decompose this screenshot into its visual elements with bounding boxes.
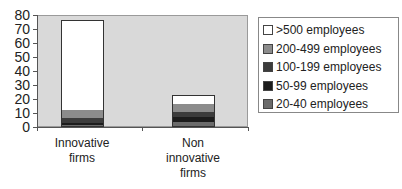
y-tick <box>33 99 37 100</box>
legend-item: 200-499 employees <box>263 40 398 59</box>
legend-swatch-icon <box>263 62 273 72</box>
legend-label: >500 employees <box>276 23 364 37</box>
y-axis <box>37 15 38 128</box>
bar-segment <box>173 96 214 104</box>
x-label-line: Non <box>148 136 238 151</box>
legend-swatch-icon <box>263 81 273 91</box>
legend-label: 100-199 employees <box>276 60 381 74</box>
x-tick <box>37 127 38 131</box>
y-tick-label: 10 <box>2 106 30 120</box>
legend-swatch-icon <box>263 44 273 54</box>
bar-segment <box>173 104 214 113</box>
bar-non-innovative-firms <box>172 95 215 127</box>
x-label-line: Innovative <box>37 136 127 151</box>
y-tick-label: 40 <box>2 64 30 78</box>
legend-swatch-icon <box>263 99 273 109</box>
bar-segment <box>62 21 103 110</box>
legend-swatch-icon <box>263 25 273 35</box>
bar-segment <box>62 125 103 126</box>
x-tick <box>142 127 143 131</box>
x-label-line: firms <box>37 151 127 166</box>
legend-item: 20-40 employees <box>263 95 398 114</box>
legend-label: 20-40 employees <box>276 97 368 111</box>
bar-segment <box>62 110 103 118</box>
bar-segment <box>173 122 214 126</box>
legend-item: 100-199 employees <box>263 58 398 77</box>
y-tick <box>33 113 37 114</box>
legend-item: >500 employees <box>263 21 398 40</box>
y-tick <box>33 29 37 30</box>
y-tick-label: 60 <box>2 36 30 50</box>
y-tick-label: 30 <box>2 78 30 92</box>
y-tick <box>33 57 37 58</box>
y-tick-label: 0 <box>2 120 30 134</box>
x-tick-label: Innovativefirms <box>37 136 127 166</box>
legend-item: 50-99 employees <box>263 77 398 96</box>
y-tick-label: 50 <box>2 50 30 64</box>
legend-label: 50-99 employees <box>276 79 368 93</box>
bar-innovative-firms <box>61 20 104 127</box>
y-tick <box>33 43 37 44</box>
y-tick <box>33 15 37 16</box>
x-tick-label: Noninnovativefirms <box>148 136 238 181</box>
x-label-line: firms <box>148 166 238 181</box>
y-tick-label: 20 <box>2 92 30 106</box>
y-tick-label: 80 <box>2 8 30 22</box>
x-label-line: innovative <box>148 151 238 166</box>
y-tick <box>33 85 37 86</box>
y-tick-label: 70 <box>2 22 30 36</box>
x-tick <box>248 127 249 131</box>
legend: >500 employees200-499 employees100-199 e… <box>258 17 399 113</box>
y-tick <box>33 71 37 72</box>
legend-label: 200-499 employees <box>276 42 381 56</box>
